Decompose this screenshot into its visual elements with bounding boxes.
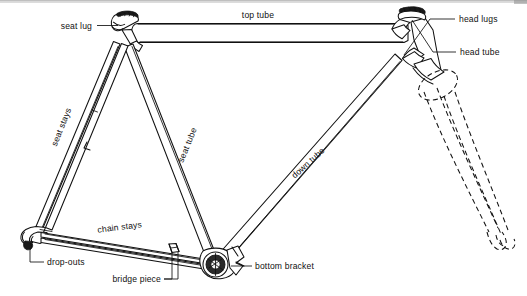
- top-tube-part: [132, 24, 409, 43]
- bicycle-frame-diagram: top tube seat lug head lugs head tube se…: [0, 0, 527, 296]
- bridge-piece-part: [169, 244, 179, 253]
- front-fork-dashed: [413, 64, 515, 250]
- label-chain-stays: chain stays: [97, 219, 143, 234]
- head-tube-part: [392, 7, 444, 84]
- seat-stays-part: [36, 42, 128, 231]
- leader-drop-outs: [30, 250, 44, 262]
- label-bottom-bracket: bottom bracket: [255, 261, 314, 271]
- label-seat-tube: seat tube: [176, 126, 199, 164]
- label-top-tube: top tube: [242, 10, 274, 20]
- label-bridge-piece: bridge piece: [112, 274, 161, 284]
- top-edge-band: [0, 0, 527, 4]
- frame-drawing-canvas: top tube seat lug head lugs head tube se…: [0, 0, 527, 296]
- label-seat-stays: seat stays: [49, 106, 73, 147]
- label-down-tube: down tube: [289, 145, 326, 180]
- label-head-tube: head tube: [460, 47, 500, 57]
- label-seat-lug: seat lug: [61, 21, 92, 31]
- label-head-lugs: head lugs: [459, 14, 498, 24]
- bottom-bracket-part: [200, 246, 244, 279]
- label-drop-outs: drop-outs: [47, 257, 85, 267]
